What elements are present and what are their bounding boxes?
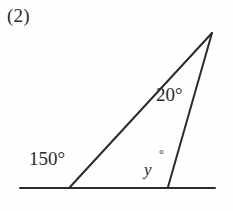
angle-label-apex: 20° [156, 85, 183, 104]
geometry-figure: (2) 150° 20° y ° [0, 0, 233, 211]
angle-label-unknown-variable: y [144, 161, 152, 178]
angle-label-left-base: 150° [29, 149, 65, 168]
degree-symbol-icon: ° [159, 148, 164, 160]
figure-drawing-canvas [0, 0, 233, 211]
figure-index-label: (2) [7, 6, 30, 25]
